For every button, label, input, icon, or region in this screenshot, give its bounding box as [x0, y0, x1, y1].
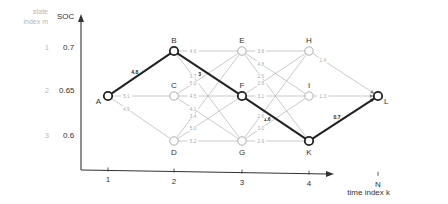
- edge-cost-label: 3: [198, 71, 201, 77]
- state-tick-1: 1: [45, 44, 49, 51]
- edge-cost-label: 0.7: [334, 114, 341, 120]
- edge-cost-label: 4.6: [190, 49, 197, 54]
- edge-cost-label: 5.2: [190, 139, 197, 144]
- node-label: G: [239, 148, 245, 157]
- node-B: [170, 47, 178, 55]
- node-L: [374, 92, 382, 100]
- edge-cost-label: 5.0: [190, 126, 197, 131]
- edge-cost-label: 1.3: [320, 94, 327, 99]
- node-F: [238, 92, 246, 100]
- edge-cost-label: 5.1: [123, 94, 130, 99]
- node-C: [170, 92, 178, 100]
- edge-cost-label: 3.4: [190, 114, 197, 119]
- state-tick-3: 3: [45, 132, 49, 139]
- node-label: L: [384, 97, 389, 106]
- edge-cost-label: 2.5: [258, 74, 265, 79]
- soc-tick-1: 0.7: [63, 43, 75, 52]
- edge-cost-label: 4.9: [123, 107, 130, 112]
- axes: state index m SOC 1 0.7 2 0.65 3 0.6 123…: [23, 8, 391, 197]
- state-axis-title-line1: state: [33, 8, 48, 15]
- edge-cost-label: 5.0: [190, 81, 197, 86]
- node-G: [238, 137, 246, 145]
- edge-cost-label: 4.1: [190, 107, 197, 112]
- edge-A-B: [111, 53, 170, 93]
- state-axis-title-line2: index m: [23, 18, 48, 25]
- y-axis-arrow-icon: [78, 14, 84, 22]
- soc-tick-2: 0.65: [59, 86, 75, 95]
- edge-cost-label: 2.9: [258, 139, 265, 144]
- node-D: [170, 137, 178, 145]
- state-tick-2: 2: [45, 87, 49, 94]
- edge-cost-label: 3.0: [258, 126, 265, 131]
- node-label: C: [171, 81, 177, 90]
- x-axis-arrow-icon: [326, 171, 334, 177]
- node-E: [238, 47, 246, 55]
- edge-cost-label: 4.8: [131, 69, 138, 75]
- node-A: [104, 92, 112, 100]
- nodes: ABCDEFGHIKL: [96, 36, 389, 157]
- edge-K-L: [313, 98, 375, 138]
- edge-cost-label: 4.8: [258, 62, 265, 67]
- edge-cost-label: 2.8: [258, 81, 265, 86]
- node-label: D: [171, 148, 177, 157]
- node-label: B: [171, 36, 176, 45]
- node-label: E: [239, 36, 244, 45]
- node-label: H: [306, 36, 312, 45]
- edge-cost-label: 4.5: [190, 94, 197, 99]
- node-K: [305, 137, 313, 145]
- node-H: [305, 47, 313, 55]
- node-label: I: [308, 81, 310, 90]
- edge-cost-label: 2.6: [258, 114, 265, 119]
- node-label: F: [240, 81, 245, 90]
- x-tick-label: 3: [240, 178, 245, 187]
- node-label: K: [306, 148, 312, 157]
- edge-cost-label: 3.1: [258, 94, 265, 99]
- edge-cost-label: 3.7: [190, 74, 197, 79]
- edge-cost-label: 1.4: [320, 58, 327, 63]
- node-I: [305, 92, 313, 100]
- x-tick-label: 4: [307, 179, 312, 188]
- x-tick-label: 1: [106, 175, 111, 184]
- soc-axis-title: SOC: [57, 12, 75, 21]
- soc-tick-3: 0.6: [63, 131, 75, 140]
- x-axis: [81, 170, 328, 174]
- edge-cost-label: 3.8: [258, 49, 265, 54]
- x-tick-label: 2: [172, 177, 177, 186]
- edge-A-D: [111, 98, 170, 138]
- dynamic-programming-graph: state index m SOC 1 0.7 2 0.65 3 0.6 123…: [0, 0, 448, 204]
- time-axis-title: time index k: [347, 188, 391, 197]
- node-label: A: [96, 97, 102, 106]
